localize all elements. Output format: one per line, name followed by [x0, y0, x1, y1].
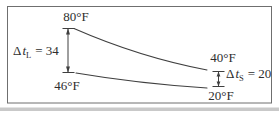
delta-symbol: Δ: [226, 66, 234, 81]
cold-right-temperature-label: 20°F: [208, 88, 233, 103]
delta-t-small-subscript: S: [239, 73, 244, 83]
delta-t-large-dimension-lines: [63, 29, 75, 73]
hot-inlet-temperature-label: 80°F: [63, 9, 88, 24]
delta-symbol: Δ: [13, 43, 21, 58]
delta-t-small-value: = 20: [248, 66, 272, 81]
delta-t-large-label: ΔtL= 34: [13, 43, 59, 60]
arrow-up-icon: [66, 29, 70, 35]
arrow-down-icon: [66, 67, 70, 73]
delta-t-large-arrow: [63, 29, 75, 73]
upper-temperature-curve: [74, 29, 207, 71]
arrow-up-icon: [217, 72, 221, 77]
lower-temperature-curve: [76, 73, 207, 88]
hot-outlet-temperature-label: 40°F: [210, 50, 235, 65]
delta-t-small-label: ΔtS= 20: [226, 66, 271, 83]
delta-t-small-arrow: [213, 72, 225, 87]
delta-t-large-value: = 34: [35, 43, 59, 58]
figure-panel: 80°F 46°F 40°F 20°F ΔtL= 34 ΔtS= 20: [0, 0, 279, 113]
arrow-down-icon: [217, 82, 221, 87]
cold-left-temperature-label: 46°F: [54, 78, 79, 93]
temperature-difference-diagram: 80°F 46°F 40°F 20°F ΔtL= 34 ΔtS= 20: [0, 0, 279, 113]
page-rule: [0, 108, 279, 112]
delta-t-large-subscript: L: [26, 50, 31, 60]
